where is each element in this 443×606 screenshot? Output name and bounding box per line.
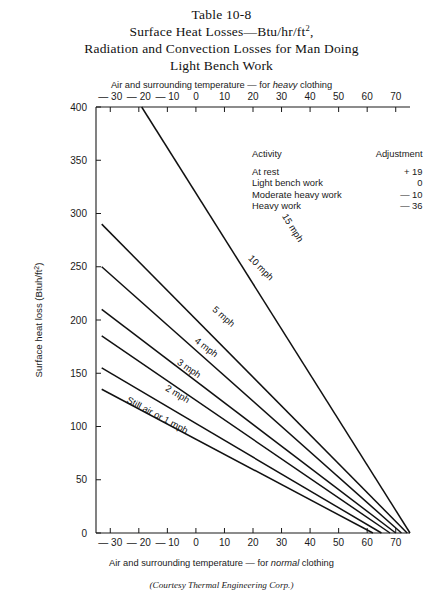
legend-activity-3: Heavy work	[252, 200, 376, 212]
series-line-10-mph	[102, 224, 407, 533]
x-tick-label-top-20: 20	[247, 91, 259, 102]
figure-page: Table 10-8 Surface Heat Losses—Btu/hr/ft…	[0, 0, 443, 606]
activity-adjustment-legend: ActivityAdjustmentAt rest+ 19Light bench…	[252, 148, 423, 212]
legend-activity-0: At rest	[252, 166, 376, 178]
legend-row: Light bench work0	[252, 177, 423, 189]
bottom-axis-caption: Air and surrounding temperature — for no…	[0, 558, 443, 568]
x-tick-label-top-0: 0	[193, 91, 199, 102]
y-tick-label-150: 150	[70, 368, 87, 379]
x-tick-label-bottom--10: — 10	[155, 537, 179, 548]
x-tick-label-bottom--20: — 20	[127, 537, 151, 548]
x-tick-label-top-60: 60	[362, 91, 374, 102]
x-tick-label-top-40: 40	[305, 91, 317, 102]
x-tick-label-bottom-60: 60	[362, 537, 374, 548]
legend-table: ActivityAdjustmentAt rest+ 19Light bench…	[252, 148, 423, 212]
y-tick-label-250: 250	[70, 261, 87, 272]
courtesy-credit: (Courtesy Thermal Engineering Corp.)	[0, 580, 443, 590]
series-line-4-mph	[102, 309, 396, 533]
y-axis-label-group: Surface heat loss (Btuh/ft2)	[33, 263, 44, 378]
series-label-2-mph: 2 mph	[164, 382, 192, 405]
x-tick-label-top-70: 70	[390, 91, 402, 102]
y-tick-label-400: 400	[70, 102, 87, 113]
legend-header-activity: Activity	[252, 148, 376, 166]
legend-activity-1: Light bench work	[252, 177, 376, 189]
y-tick-label-0: 0	[81, 528, 87, 539]
series-label-4-mph: 4 mph	[193, 335, 220, 360]
y-tick-label-350: 350	[70, 155, 87, 166]
x-tick-label-top--20: — 20	[127, 91, 151, 102]
legend-row: At rest+ 19	[252, 166, 423, 178]
x-tick-label-top-50: 50	[333, 91, 345, 102]
series-line-3-mph	[102, 336, 390, 533]
x-tick-label-top-30: 30	[276, 91, 288, 102]
x-tick-label-bottom-0: 0	[193, 537, 199, 548]
legend-adjustment-3: — 36	[376, 200, 423, 212]
legend-header-adjustment: Adjustment	[376, 148, 423, 166]
x-tick-label-top--30: — 30	[98, 91, 122, 102]
x-tick-label-bottom-40: 40	[305, 537, 317, 548]
legend-header-row: ActivityAdjustment	[252, 148, 423, 166]
legend-activity-2: Moderate heavy work	[252, 189, 376, 201]
legend-adjustment-0: + 19	[376, 166, 423, 178]
series-label-10-mph: 10 mph	[246, 252, 276, 282]
legend-row: Moderate heavy work— 10	[252, 189, 423, 201]
x-tick-label-bottom--30: — 30	[98, 537, 122, 548]
series-label-15-mph: 15 mph	[280, 211, 306, 243]
x-tick-label-bottom-70: 70	[390, 537, 402, 548]
x-tick-label-top-10: 10	[219, 91, 231, 102]
x-tick-label-bottom-10: 10	[219, 537, 231, 548]
bottom-axis-caption-pre: Air and surrounding temperature — for	[109, 558, 271, 568]
x-tick-label-bottom-30: 30	[276, 537, 288, 548]
legend-adjustment-2: — 10	[376, 189, 423, 201]
y-tick-label-100: 100	[70, 421, 87, 432]
x-tick-label-bottom-50: 50	[333, 537, 345, 548]
series-label-5-mph: 5 mph	[211, 304, 238, 330]
series-line-5-mph	[102, 267, 402, 533]
series-line-2-mph	[102, 368, 382, 533]
legend-body: ActivityAdjustmentAt rest+ 19Light bench…	[252, 148, 423, 212]
y-tick-label-200: 200	[70, 315, 87, 326]
y-tick-label-300: 300	[70, 208, 87, 219]
legend-row: Heavy work— 36	[252, 200, 423, 212]
x-tick-label-top--10: — 10	[155, 91, 179, 102]
bottom-axis-caption-post: clothing	[299, 558, 334, 568]
legend-adjustment-1: 0	[376, 177, 423, 189]
y-tick-label-50: 50	[76, 474, 88, 485]
bottom-axis-caption-emphasis: normal	[271, 558, 299, 568]
x-tick-label-bottom-20: 20	[247, 537, 259, 548]
chart-plot: — 30— 20— 10010203040506070— 30— 20— 100…	[0, 0, 443, 606]
y-axis-title: Surface heat loss (Btuh/ft2)	[33, 263, 44, 378]
